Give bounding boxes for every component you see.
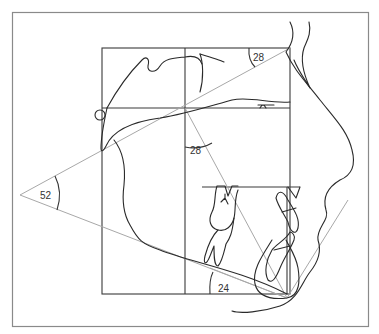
reference-lines <box>20 48 348 298</box>
cephalometric-diagram: 52 28 28 24 <box>0 0 379 334</box>
angle-52: 52 <box>40 176 60 210</box>
angle-label-28-upper: 28 <box>253 52 265 63</box>
angle-label-24: 24 <box>218 283 230 294</box>
facial-axis <box>185 108 287 298</box>
angle-28-middle: 28 <box>185 143 212 156</box>
nasion-line <box>20 48 290 195</box>
angle-label-52: 52 <box>40 190 52 201</box>
angle-24: 24 <box>210 272 230 294</box>
angle-28-upper: 28 <box>249 48 265 67</box>
upper-incisor <box>276 187 300 232</box>
angle-label-28-middle: 28 <box>190 145 202 156</box>
soft-tissue-profile <box>232 22 354 312</box>
analysis-grid <box>102 48 300 294</box>
